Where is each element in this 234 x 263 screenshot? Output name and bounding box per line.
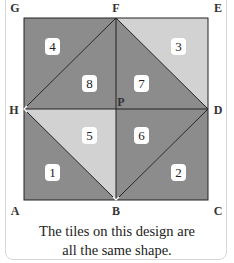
- tile-label-4: 4: [45, 38, 60, 55]
- tile-label-8: 8: [82, 75, 97, 92]
- tile-label-7: 7: [134, 75, 149, 92]
- svg-text:3: 3: [175, 39, 182, 54]
- tile-label-5: 5: [82, 127, 97, 144]
- svg-text:7: 7: [138, 76, 145, 91]
- vertex-B: B: [112, 204, 120, 218]
- vertex-C: C: [214, 204, 223, 218]
- svg-text:2: 2: [175, 165, 182, 180]
- tile-label-3: 3: [171, 38, 186, 55]
- tile-label-6: 6: [134, 127, 149, 144]
- svg-text:5: 5: [86, 128, 93, 143]
- vertex-A: A: [11, 204, 20, 218]
- svg-text:1: 1: [49, 165, 56, 180]
- vertex-D: D: [214, 103, 223, 117]
- svg-text:8: 8: [86, 76, 93, 91]
- caption-line-2: all the same shape.: [0, 241, 234, 260]
- vertex-P: P: [117, 95, 124, 109]
- tile-label-1: 1: [45, 164, 60, 181]
- vertex-F: F: [112, 1, 119, 15]
- caption-line-1: The tiles on this design are: [0, 222, 234, 241]
- svg-text:4: 4: [49, 39, 56, 54]
- vertex-H: H: [9, 103, 19, 117]
- svg-text:6: 6: [138, 128, 145, 143]
- tile-label-2: 2: [171, 164, 186, 181]
- vertex-E: E: [214, 1, 222, 15]
- vertex-G: G: [10, 1, 19, 15]
